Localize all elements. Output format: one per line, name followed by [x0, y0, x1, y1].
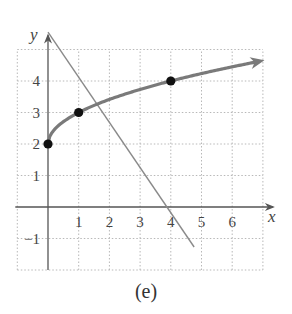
x-tick-label: 5 — [198, 214, 206, 230]
data-point — [74, 108, 83, 117]
grid-lines — [17, 50, 263, 271]
y-tick-label: 2 — [33, 136, 41, 152]
figure-caption: (e) — [0, 280, 292, 303]
sqrt-curve — [48, 62, 258, 144]
y-tick-labels: −11234 — [24, 73, 40, 247]
x-tick-labels: 123456 — [75, 214, 237, 230]
y-axis-label: y — [28, 25, 38, 44]
x-tick-label: 3 — [136, 214, 144, 230]
function-graph: 123456 −11234 x y — [0, 0, 292, 314]
axes — [15, 34, 275, 271]
y-tick-label: 1 — [33, 168, 41, 184]
x-tick-label: 1 — [75, 214, 83, 230]
x-tick-label: 2 — [106, 214, 114, 230]
y-tick-label: 4 — [33, 73, 41, 89]
data-point — [166, 76, 175, 85]
x-tick-label: 6 — [228, 214, 236, 230]
x-axis-label: x — [267, 207, 276, 226]
straight-line — [48, 32, 194, 247]
data-point — [43, 139, 52, 148]
y-tick-label: 3 — [33, 105, 41, 121]
y-tick-label: −1 — [24, 231, 40, 247]
